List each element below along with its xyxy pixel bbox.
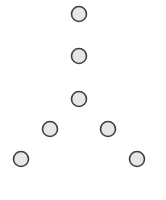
node-circle-n2	[72, 49, 87, 64]
node-circle-n5	[101, 122, 116, 137]
nodes-layer	[14, 7, 145, 167]
node-circle-n7	[130, 152, 145, 167]
node-circle-n3	[72, 92, 87, 107]
node-circle-n6	[14, 152, 29, 167]
node-circle-n4	[43, 122, 58, 137]
diagram-canvas	[0, 0, 166, 200]
node-circle-n1	[72, 7, 87, 22]
node-diagram	[0, 0, 166, 200]
